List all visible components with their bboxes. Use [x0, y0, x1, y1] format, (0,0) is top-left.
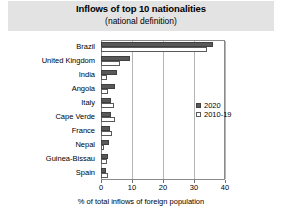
- bar-2010-19: [101, 131, 112, 136]
- bar-2020: [101, 154, 108, 159]
- chart-title-band: Inflows of top 10 nationalities (nationa…: [8, 1, 274, 31]
- bar-2010-19: [101, 103, 114, 108]
- legend-label-2010-19: 2010-19: [204, 110, 232, 119]
- bar-2020: [101, 98, 111, 103]
- bar-2020: [101, 140, 109, 145]
- y-axis-tick-label: France: [0, 124, 98, 138]
- bar-row: [101, 54, 225, 68]
- bar-2020: [101, 126, 110, 131]
- y-axis-tick-label: Italy: [0, 96, 98, 110]
- page-title: Inflows of top 10 nationalities: [8, 2, 274, 15]
- bar-2020: [101, 168, 106, 173]
- bar-row: [101, 138, 225, 152]
- bar-2010-19: [101, 117, 115, 122]
- x-axis-tick-label: 10: [123, 183, 141, 192]
- chart-legend: 2020 2010-19: [196, 101, 232, 119]
- bar-2010-19: [101, 61, 120, 66]
- bar-row: [101, 152, 225, 166]
- y-axis-tick-label: Nepal: [0, 138, 98, 152]
- bar-2020: [101, 84, 115, 89]
- x-axis-tick-label: 40: [216, 183, 234, 192]
- legend-label-2020: 2020: [204, 101, 221, 110]
- y-axis-labels: BrazilUnited KingdomIndiaAngolaItalyCape…: [0, 40, 98, 180]
- bar-2020: [101, 56, 130, 61]
- y-axis-tick-label: Spain: [0, 166, 98, 180]
- bar-2010-19: [101, 75, 107, 80]
- bar-row: [101, 166, 225, 180]
- bar-row: [101, 40, 225, 54]
- bar-row: [101, 82, 225, 96]
- bar-2010-19: [101, 145, 104, 150]
- legend-item-2020: 2020: [196, 101, 232, 110]
- y-axis-tick-label: Guinea-Bissau: [0, 152, 98, 166]
- y-axis-tick-label: United Kingdom: [0, 54, 98, 68]
- y-axis-tick-label: Cape Verde: [0, 110, 98, 124]
- x-axis-tick-label: 20: [154, 183, 172, 192]
- x-axis-tick-label: 0: [92, 183, 110, 192]
- y-axis-tick-label: Brazil: [0, 40, 98, 54]
- bar-row: [101, 68, 225, 82]
- bar-row: [101, 124, 225, 138]
- bar-2020: [101, 112, 111, 117]
- bar-2020: [101, 42, 213, 47]
- y-axis-tick-label: Angola: [0, 82, 98, 96]
- bar-2020: [101, 70, 117, 75]
- bar-2010-19: [101, 159, 107, 164]
- x-axis-tick-label: 30: [185, 183, 203, 192]
- chart-figure: Inflows of top 10 nationalities (nationa…: [0, 0, 282, 215]
- x-axis-title: % of total inflows of foreign population: [0, 197, 282, 206]
- bar-2010-19: [101, 89, 108, 94]
- y-axis-tick-label: India: [0, 68, 98, 82]
- bar-2010-19: [101, 47, 207, 52]
- bar-2010-19: [101, 173, 108, 178]
- legend-swatch-2020-icon: [196, 103, 201, 108]
- chart-subtitle: (national definition): [8, 15, 274, 27]
- legend-item-2010-19: 2010-19: [196, 110, 232, 119]
- legend-swatch-2010-19-icon: [196, 112, 201, 117]
